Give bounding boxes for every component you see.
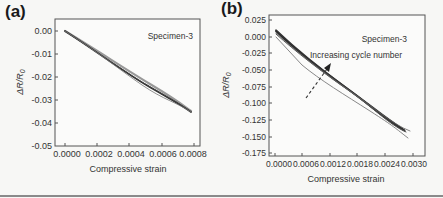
y-tick-labels-a: 0.00 -0.01 -0.02 -0.03 -0.04 -0.05 <box>31 26 52 151</box>
annotation-increasing-cycle: Increasing cycle number <box>310 50 402 60</box>
svg-text:-0.025: -0.025 <box>242 48 266 58</box>
svg-text:-0.03: -0.03 <box>31 95 52 105</box>
y-tick-labels-b: 0.025 0.000 -0.025 -0.050 -0.075 -0.100 … <box>242 15 266 158</box>
svg-text:-0.05: -0.05 <box>31 141 52 151</box>
x-axis-label-a: Compressive strain <box>89 164 166 174</box>
chart-a: 0.00 -0.01 -0.02 -0.03 -0.04 -0.05 0.000… <box>15 19 207 174</box>
svg-text:-0.02: -0.02 <box>31 72 52 82</box>
chart-b: 0.025 0.000 -0.025 -0.050 -0.075 -0.100 … <box>221 15 427 184</box>
svg-text:0.0000: 0.0000 <box>53 149 81 159</box>
annotation-specimen-a: Specimen-3 <box>148 31 194 41</box>
svg-text:0.0008: 0.0008 <box>179 149 207 159</box>
x-axis-label-b: Compressive strain <box>307 174 384 184</box>
svg-text:0.0024: 0.0024 <box>374 159 400 169</box>
y-axis-label-a: ΔR/R0 <box>15 69 26 96</box>
bottom-divider <box>0 195 443 197</box>
svg-text:0.0004: 0.0004 <box>117 149 145 159</box>
annotation-specimen-b: Specimen-3 <box>362 34 408 44</box>
svg-text:-0.150: -0.150 <box>242 132 266 142</box>
svg-text:-0.175: -0.175 <box>242 148 266 158</box>
svg-text:0.0006: 0.0006 <box>149 149 177 159</box>
svg-text:-0.100: -0.100 <box>242 98 266 108</box>
figure: (a) (b) 0.00 -0.01 -0.02 -0 <box>0 0 443 198</box>
svg-text:-0.01: -0.01 <box>31 49 52 59</box>
svg-text:0.0006: 0.0006 <box>293 159 319 169</box>
x-tick-labels-a: 0.0000 0.0002 0.0004 0.0006 0.0008 <box>53 149 207 159</box>
svg-text:-0.050: -0.050 <box>242 65 266 75</box>
svg-text:0.0012: 0.0012 <box>320 159 346 169</box>
svg-text:0.000: 0.000 <box>245 32 267 42</box>
y-axis-label-b: ΔR/R0 <box>221 72 232 99</box>
svg-text:0.00: 0.00 <box>34 26 52 36</box>
svg-text:-0.075: -0.075 <box>242 82 266 92</box>
x-tick-labels-b: 0.0000 0.0006 0.0012 0.0018 0.0024 0.003… <box>266 159 427 169</box>
svg-text:0.0018: 0.0018 <box>347 159 373 169</box>
svg-text:0.0002: 0.0002 <box>85 149 113 159</box>
chart-canvas: 0.00 -0.01 -0.02 -0.03 -0.04 -0.05 0.000… <box>0 0 443 198</box>
svg-text:0.0030: 0.0030 <box>401 159 427 169</box>
svg-text:0.025: 0.025 <box>245 15 267 25</box>
svg-text:0.0000: 0.0000 <box>266 159 292 169</box>
svg-text:-0.04: -0.04 <box>31 118 52 128</box>
svg-text:-0.125: -0.125 <box>242 115 266 125</box>
